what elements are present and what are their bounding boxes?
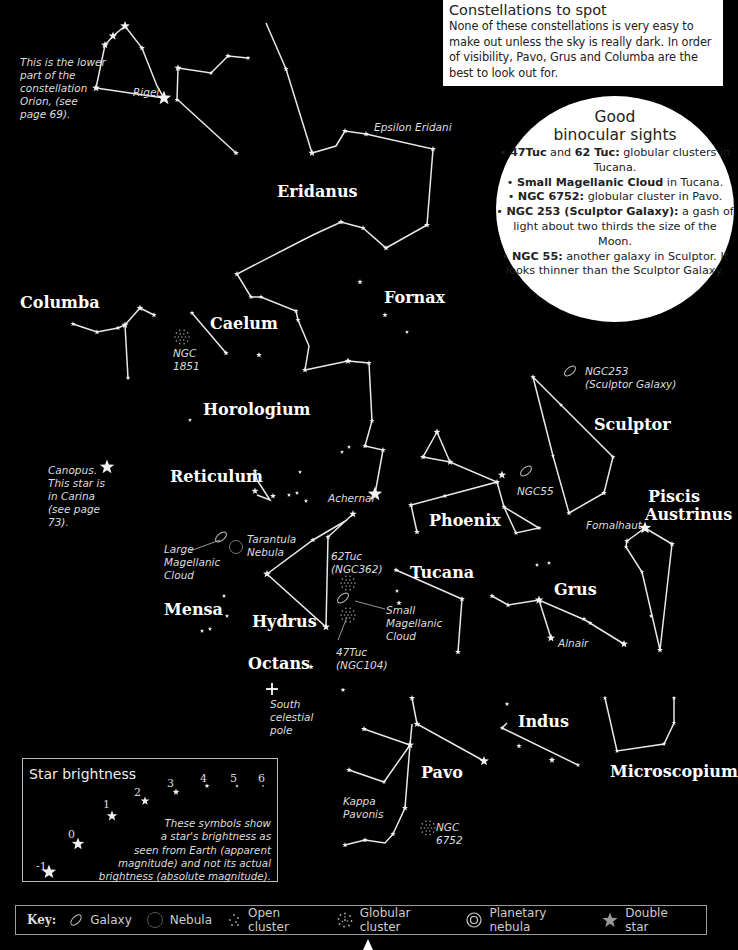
constellation-line: [177, 68, 178, 100]
star-icon: [295, 491, 299, 495]
star-icon: [361, 726, 367, 732]
star-icon: [434, 428, 441, 435]
nebula-icon: [146, 911, 170, 929]
magnitude-star-icon: [107, 811, 117, 821]
binocular-sights-circle: Good binocular sights • 47Tuc and 62 Tuc…: [496, 96, 734, 322]
chart-annotation: Large Magellanic Cloud: [164, 543, 220, 582]
star-icon: [576, 763, 581, 767]
key-item-label: Globular cluster: [360, 906, 452, 934]
constellations-to-spot-box: Constellations to spot None of these con…: [443, 0, 723, 86]
chart-annotation: This is the lower part of the constellat…: [20, 56, 106, 121]
star-icon: [566, 510, 571, 515]
constellation-label: Phoenix: [429, 511, 501, 530]
constellation-label: Pavo: [421, 763, 463, 782]
galaxy-icon: [519, 464, 533, 478]
binocular-item: • Small Magellanic Cloud in Tucana.: [496, 176, 734, 191]
star-icon: [345, 357, 352, 364]
binocular-title-line1: Good: [496, 108, 734, 126]
constellation-label: Piscis: [648, 487, 700, 506]
planetary-nebula-icon: [465, 911, 489, 929]
star-icon: [208, 627, 212, 631]
chart-annotation: Fomalhaut: [586, 519, 642, 532]
key-item-label: Galaxy: [90, 913, 132, 927]
magnitude-label: 5: [230, 772, 237, 785]
galaxy-icon: [214, 530, 228, 544]
star-icon: [505, 602, 510, 607]
chart-annotation: NGC253 (Sculptor Galaxy): [585, 365, 676, 391]
south-celestial-pole-icon: [266, 683, 278, 695]
chart-annotation: NGC55: [517, 485, 554, 498]
chart-annotation: Canopus. This star is in Carina (see pag…: [48, 464, 105, 529]
magnitude-label: 4: [200, 772, 207, 785]
star-icon: [270, 493, 276, 499]
binocular-item: • NGC 253 (Sculptor Galaxy): a gash of l…: [496, 205, 734, 249]
star-icon: [340, 450, 344, 454]
constellation-line: [349, 745, 410, 782]
star-icon: [382, 312, 387, 317]
constellation-label: Austrinus: [645, 505, 732, 524]
chart-annotation: 47Tuc (NGC104): [336, 646, 388, 672]
star-icon: [498, 471, 506, 479]
pointer-arrow-icon: [363, 939, 373, 950]
constellation-label: Microscopium: [610, 762, 738, 781]
star-icon: [657, 647, 663, 653]
star-icon: [302, 367, 308, 373]
binocular-title-line2: binocular sights: [496, 126, 734, 144]
globular-cluster-icon: [420, 821, 436, 836]
globular-cluster-icon: [336, 911, 360, 929]
star-icon: [304, 499, 308, 503]
constellation-line: [178, 100, 236, 153]
key-label: Key:: [27, 913, 56, 927]
star-icon: [395, 589, 399, 593]
star-icon: [620, 640, 628, 647]
constellation-label: Columba: [20, 293, 100, 312]
star-icon: [547, 634, 555, 642]
star-icon: [405, 330, 409, 334]
magnitude-star-icon: [262, 785, 264, 787]
star-icon: [256, 352, 262, 357]
key-item-label: Planetary nebula: [489, 906, 587, 934]
binocular-item: • 47Tuc and 62 Tuc: globular clusters in…: [496, 146, 734, 176]
chart-annotation: 62Tuc (NGC362): [331, 550, 383, 576]
constellation-label: Mensa: [164, 600, 223, 619]
chart-annotation: South celestial pole: [270, 698, 313, 737]
star-icon: [535, 563, 539, 567]
info-body: None of these constellations is very eas…: [449, 19, 717, 81]
star-icon: [363, 131, 369, 137]
magnitude-label: 3: [167, 777, 174, 790]
key-item-nebula: Nebula: [146, 911, 212, 929]
constellation-label: Reticulum: [170, 467, 263, 486]
star-icon: [246, 55, 251, 60]
star-icon: [94, 329, 99, 334]
constellation-label: Caelum: [210, 314, 278, 333]
chart-annotation: Rigel: [133, 86, 159, 99]
star-icon: [357, 279, 362, 284]
open-cluster-icon: [226, 912, 248, 928]
magnitude-label: 0: [68, 828, 75, 841]
constellation-line: [345, 834, 393, 845]
star-icon: [298, 470, 302, 474]
star-icon: [342, 842, 347, 847]
star-brightness-legend: Star brightness These symbols show a sta…: [22, 758, 278, 882]
star-icon: [346, 767, 352, 772]
binocular-item: • NGC 6752: globular cluster in Pavo.: [496, 190, 734, 205]
star-icon: [516, 743, 521, 748]
constellation-label: Horologium: [203, 400, 310, 419]
key-legend: Key: GalaxyNebulaOpen clusterGlobular cl…: [15, 905, 707, 935]
constellation-line: [412, 698, 484, 761]
magnitude-label: 2: [134, 786, 141, 799]
chart-annotation: Tarantula Nebula: [247, 533, 296, 559]
constellation-label: Eridanus: [277, 182, 358, 201]
star-icon: [505, 702, 510, 706]
magnitude-label: -1: [36, 860, 47, 873]
key-item-double-star: Double star: [601, 906, 692, 934]
star-icon: [362, 837, 367, 842]
constellation-line: [364, 729, 410, 745]
star-icon: [342, 128, 348, 134]
constellation-label: Sculptor: [594, 415, 671, 434]
star-icon: [252, 487, 259, 494]
chart-annotation: Epsilon Eridani: [374, 121, 452, 134]
globular-cluster-icon: [174, 330, 190, 345]
chart-annotation: Achernar: [328, 492, 376, 505]
star-icon: [225, 614, 229, 618]
